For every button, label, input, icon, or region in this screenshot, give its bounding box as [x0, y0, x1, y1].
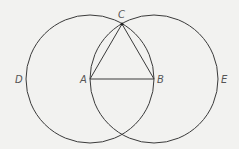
label-C: C: [118, 9, 125, 20]
segment-AC: [90, 24, 122, 79]
label-E: E: [221, 74, 228, 85]
label-A: A: [79, 74, 87, 85]
point-C-dot: [121, 23, 124, 26]
label-B: B: [157, 74, 164, 85]
geometry-figure: C D A B E: [0, 0, 239, 149]
diagram-canvas: C D A B E: [0, 0, 239, 149]
segment-BC: [122, 24, 154, 79]
label-D: D: [15, 74, 23, 85]
